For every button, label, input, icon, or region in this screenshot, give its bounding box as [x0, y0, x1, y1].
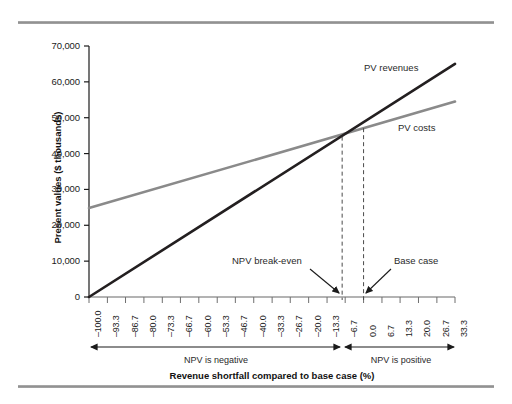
- arrow-base-case: [366, 269, 391, 293]
- x-axis-tick-label: –40.0: [258, 315, 268, 337]
- x-axis-tick-label: 0.0: [368, 325, 378, 337]
- x-axis-tick-label: –100.0: [93, 311, 103, 337]
- range-caption-npv-positive: NPV is positive: [347, 355, 455, 365]
- x-axis-tick-label: –46.7: [239, 315, 249, 337]
- x-axis-tick-label: –13.3: [331, 315, 341, 337]
- x-axis-tick-label: –66.7: [184, 315, 194, 337]
- arrow-npv-break-even: [310, 269, 339, 293]
- y-axis-tick-label: 70,000: [32, 40, 80, 51]
- x-axis-tick-label: –86.7: [130, 315, 140, 337]
- x-axis-tick-label: –93.3: [111, 315, 121, 337]
- y-axis-tick-label: 0: [32, 291, 80, 302]
- chart-plot-area: [0, 0, 512, 404]
- y-axis-title: Present values ($ thousands): [52, 83, 63, 273]
- annotation-label-base-case: Base case: [394, 255, 438, 266]
- x-axis-tick-label: –53.3: [221, 315, 231, 337]
- x-axis-tick-label: 6.7: [386, 325, 396, 337]
- x-axis-tick-marks: [89, 297, 455, 303]
- annotation-label-npv-break-even: NPV break-even: [232, 255, 302, 266]
- series-label-pv-costs: PV costs: [398, 122, 436, 133]
- x-axis-tick-label: –26.7: [294, 315, 304, 337]
- range-caption-npv-negative: NPV is negative: [110, 355, 322, 365]
- x-axis-tick-label: –6.7: [349, 320, 359, 337]
- figure-container: 010,00020,00030,00040,00050,00060,00070,…: [0, 0, 512, 404]
- x-axis-tick-label: –80.0: [148, 315, 158, 337]
- x-axis-tick-label: 33.3: [459, 320, 469, 337]
- x-axis-tick-label: –60.0: [203, 315, 213, 337]
- series-label-pv-revenues: PV revenues: [364, 62, 418, 73]
- x-axis-tick-label: –73.3: [166, 315, 176, 337]
- x-axis-tick-label: –20.0: [313, 315, 323, 337]
- y-axis-tick-marks: [84, 46, 89, 297]
- x-axis-title: Revenue shortfall compared to base case …: [89, 370, 455, 381]
- x-axis-tick-label: –33.3: [276, 315, 286, 337]
- x-axis-tick-label: 26.7: [441, 320, 451, 337]
- x-axis-tick-label: 20.0: [422, 320, 432, 337]
- series-line-pv-costs: [89, 102, 455, 208]
- x-axis-tick-label: 13.3: [404, 320, 414, 337]
